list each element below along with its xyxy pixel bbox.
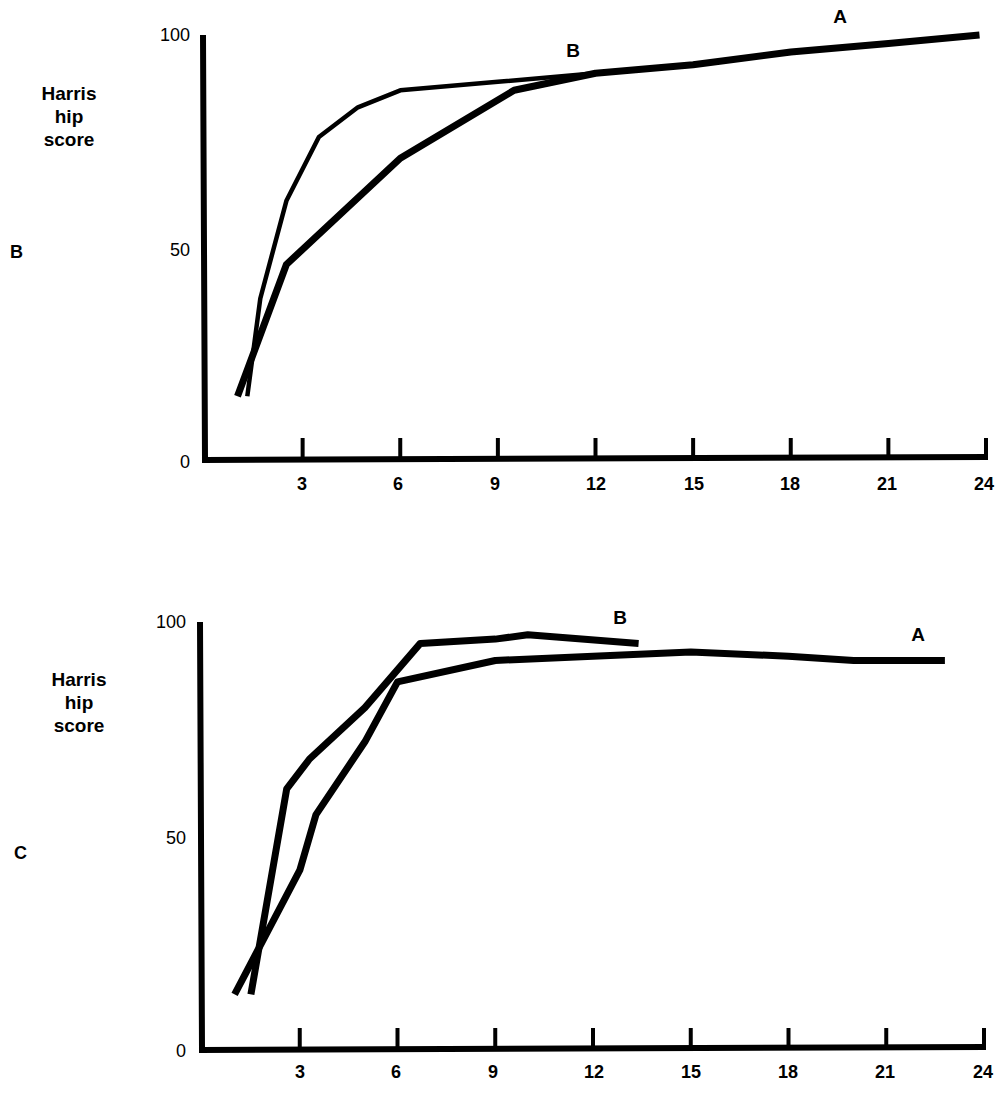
x-tick-label: 12 [584, 1062, 604, 1083]
y-tick-label: 0 [136, 1041, 186, 1062]
y-axis-label-line: Harris [24, 668, 134, 691]
y-axis-label-line: hip [14, 105, 124, 128]
x-tick-label: 18 [778, 1062, 798, 1083]
series-line-a [235, 652, 945, 994]
y-axis-label-line: hip [24, 691, 134, 714]
series-line-b [251, 635, 639, 995]
x-tick-label: 9 [488, 1062, 498, 1083]
y-tick-label: 100 [136, 612, 186, 633]
x-tick-label: 21 [875, 1062, 895, 1083]
x-tick-label: 18 [780, 474, 800, 495]
x-tick-label: 12 [586, 474, 606, 495]
x-tick-label: 6 [391, 1062, 401, 1083]
y-tick-label: 100 [140, 25, 190, 46]
series-line-a [238, 35, 980, 396]
series-b-label: B [613, 607, 627, 629]
series-line-b [247, 73, 595, 396]
y-tick-label: 50 [136, 828, 186, 849]
y-axis-label: Harris hip score [24, 668, 134, 737]
chart-panel-c: C Harris hip score 100 50 0 3 6 9 12 15 … [0, 580, 1008, 1108]
x-tick-label: 24 [973, 1062, 993, 1083]
y-axis-label: Harris hip score [14, 82, 124, 151]
axes [203, 35, 988, 460]
x-tick-label: 15 [681, 1062, 701, 1083]
x-tick-label: 6 [393, 474, 403, 495]
line-chart-b [0, 0, 1008, 560]
x-tick-label: 21 [877, 474, 897, 495]
y-axis-label-line: score [24, 714, 134, 737]
panel-label: B [10, 242, 23, 263]
series-a-label: A [911, 624, 925, 646]
axes [200, 622, 986, 1050]
x-tick-label: 15 [684, 474, 704, 495]
y-tick-label: 50 [140, 240, 190, 261]
series-b-label: B [566, 40, 580, 62]
y-tick-label: 0 [140, 452, 190, 473]
panel-label: C [14, 843, 27, 864]
y-axis-label-line: Harris [14, 82, 124, 105]
x-tick-label: 3 [295, 1062, 305, 1083]
chart-panel-b: B Harris hip score 100 50 0 3 6 9 12 15 … [0, 0, 1008, 560]
y-axis-label-line: score [14, 128, 124, 151]
x-tick-label: 9 [490, 474, 500, 495]
series-a-label: A [833, 6, 847, 28]
x-tick-label: 3 [297, 474, 307, 495]
x-tick-label: 24 [974, 474, 994, 495]
